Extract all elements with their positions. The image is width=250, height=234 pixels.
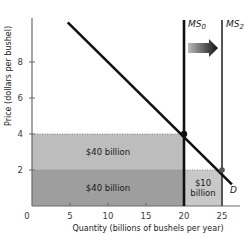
x-tick-label: 20	[179, 211, 190, 221]
y-tick-label: 2	[18, 165, 23, 175]
ms2-label: MS2	[226, 19, 244, 31]
x-tick-label: 5	[67, 211, 72, 221]
chart: 0510152025 2468 $40 billion $40 billion …	[0, 0, 250, 234]
x-tick-label: 15	[141, 211, 152, 221]
demand-label: D	[230, 185, 237, 195]
area-label-upper: $40 billion	[86, 147, 130, 157]
area-label-lower: $40 billion	[86, 183, 130, 193]
x-tick-label: 25	[217, 211, 228, 221]
y-tick-label: 6	[18, 93, 23, 103]
y-axis-title: Price (dollars per bushel)	[4, 26, 13, 126]
x-tick-label: 10	[103, 211, 114, 221]
shift-arrow	[188, 39, 218, 57]
area-label-added-line2: billion	[190, 188, 215, 198]
area-label-added-line1: $10	[195, 178, 211, 188]
equilibrium-point-new	[219, 167, 225, 173]
ms0-label: MS0	[188, 19, 206, 31]
equilibrium-point-initial	[181, 131, 187, 137]
x-axis-title: Quantity (billions of bushels per year)	[72, 224, 223, 233]
y-tick-label: 8	[18, 57, 23, 67]
y-tick-label: 4	[18, 129, 23, 139]
x-tick-label: 0	[24, 211, 29, 221]
